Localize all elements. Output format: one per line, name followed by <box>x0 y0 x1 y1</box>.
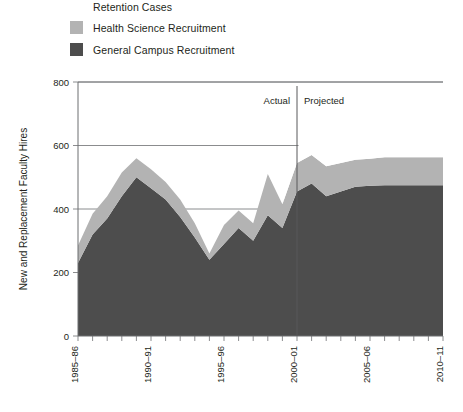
y-tick-label: 600 <box>53 140 69 151</box>
x-tick-label: 1995–96 <box>215 346 226 383</box>
y-tick-label: 200 <box>53 267 69 278</box>
x-tick-label: 1990–91 <box>142 346 153 383</box>
x-tick-label: 1985–86 <box>69 346 80 383</box>
y-tick-labels: 0200400600800 <box>53 77 69 342</box>
x-tick-label: 2005–06 <box>361 346 372 383</box>
chart-container: Retention Cases Health Science Recruitme… <box>0 0 463 412</box>
x-tick-label: 2010–11 <box>434 346 445 382</box>
y-tick-label: 400 <box>53 204 69 215</box>
chart-annotations: ActualProjected <box>264 95 345 106</box>
x-tick-label: 2000–01 <box>288 346 299 383</box>
y-axis-title-text: New and Replacement Faculty Hires <box>18 128 29 290</box>
stacked-areas <box>78 116 443 336</box>
plot-area: 0200400600800 1985–861990–911995–962000–… <box>0 0 463 412</box>
y-tick-label: 0 <box>64 331 69 342</box>
y-tick-label: 800 <box>53 77 69 88</box>
x-tick-labels: 1985–861990–911995–962000–012005–062010–… <box>69 346 445 383</box>
y-axis-title: New and Replacement Faculty Hires <box>18 128 29 290</box>
annotation-actual: Actual <box>264 95 290 106</box>
annotation-projected: Projected <box>304 95 344 106</box>
area-chart-svg: 0200400600800 1985–861990–911995–962000–… <box>0 0 463 412</box>
